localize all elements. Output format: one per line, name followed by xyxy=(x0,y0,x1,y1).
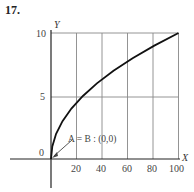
x-tick-20: 20 xyxy=(71,163,81,174)
x-tick-100: 100 xyxy=(169,163,184,174)
y-tick-0: 0 xyxy=(39,147,44,158)
arrowhead-icon xyxy=(52,152,58,158)
y-tick-10: 10 xyxy=(36,28,46,39)
x-tick-80: 80 xyxy=(147,163,157,174)
x-axis-label: X xyxy=(181,152,189,163)
chart: A = B : (0,0) 10 5 0 20 40 60 80 100 Y X xyxy=(0,0,194,192)
annotation-label: A = B : (0,0) xyxy=(68,134,116,145)
y-tick-5: 5 xyxy=(40,91,45,102)
x-tick-60: 60 xyxy=(122,163,132,174)
y-axis-label: Y xyxy=(54,19,61,30)
x-tick-40: 40 xyxy=(96,163,106,174)
